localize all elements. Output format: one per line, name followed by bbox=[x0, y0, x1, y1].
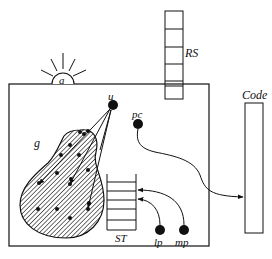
sun-device-icon: a bbox=[41, 53, 86, 86]
code-box: Code bbox=[242, 88, 268, 233]
label-st: ST bbox=[115, 232, 128, 244]
register-lp: lp bbox=[138, 199, 165, 248]
st-stack: ST bbox=[107, 174, 136, 244]
heap-g: g bbox=[20, 129, 104, 238]
register-pc: pc bbox=[131, 108, 243, 197]
label-rs: RS bbox=[184, 46, 198, 60]
rs-stack: RS bbox=[165, 11, 198, 99]
label-lp: lp bbox=[154, 236, 163, 248]
register-mp: mp bbox=[138, 190, 189, 248]
label-mp: mp bbox=[175, 236, 189, 248]
machine-diagram: a RS Code g u bbox=[0, 0, 272, 259]
label-g: g bbox=[34, 136, 40, 150]
label-a: a bbox=[59, 74, 65, 86]
label-pc: pc bbox=[131, 108, 143, 120]
label-code: Code bbox=[242, 88, 268, 102]
